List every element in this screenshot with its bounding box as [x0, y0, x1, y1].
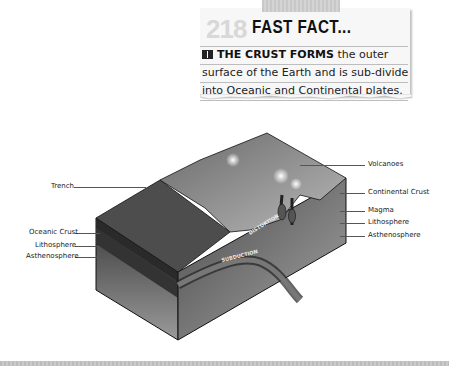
- volcano-glow-1: [226, 153, 240, 167]
- label-lithosphere-right: Lithosphere: [368, 218, 409, 226]
- leader-continental-crust: [340, 193, 365, 194]
- volcano-glow-2: [273, 168, 289, 184]
- label-asthenosphere-left: Asthenosphere: [26, 252, 79, 260]
- volcano-glow-3: [290, 178, 302, 190]
- label-continental-crust: Continental Crust: [368, 188, 429, 196]
- label-trench: Trench: [51, 182, 74, 190]
- leader-asthenosphere-right: [340, 236, 365, 237]
- leader-lithosphere-left: [75, 246, 100, 247]
- label-oceanic-crust: Oceanic Crust: [29, 228, 78, 236]
- leader-lithosphere-right: [340, 223, 365, 224]
- label-magma: Magma: [368, 206, 394, 214]
- bottom-divider: [0, 361, 449, 366]
- leader-asthenosphere-left: [75, 257, 100, 258]
- label-asthenosphere-right: Asthenosphere: [368, 231, 421, 239]
- leader-trench: [74, 187, 146, 188]
- leader-magma: [340, 211, 365, 212]
- leader-volcanoes: [300, 165, 365, 166]
- label-lithosphere-left: Lithosphere: [35, 241, 76, 249]
- label-volcanoes: Volcanoes: [368, 160, 403, 168]
- leader-oceanic-crust: [75, 233, 100, 234]
